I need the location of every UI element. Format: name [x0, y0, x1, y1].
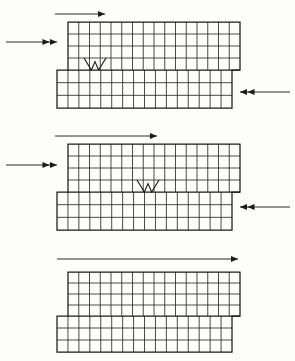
left-load-arrow-head-2: [43, 39, 50, 45]
mesh-diagram-svg: [0, 0, 295, 361]
right-reaction-arrow-head-2: [248, 204, 255, 210]
panel-2-mesh: [57, 144, 240, 230]
top-load-arrow-head-1: [98, 11, 105, 17]
right-reaction-arrow-head-1: [240, 89, 247, 95]
top-load-arrow-head-1: [231, 256, 238, 262]
panel-3-mesh: [57, 272, 240, 352]
panel-2: [6, 133, 290, 230]
left-load-arrow-head-1: [50, 162, 57, 168]
panel-2-crack-notch: [137, 180, 159, 192]
panel-1-crack-notch: [84, 58, 106, 70]
right-reaction-arrow-head-1: [240, 204, 247, 210]
top-load-arrow-head-1: [150, 133, 157, 139]
panel-1-mesh: [57, 22, 240, 108]
left-load-arrow-head-2: [43, 162, 50, 168]
panel-3: [57, 256, 240, 352]
panel-1: [6, 11, 290, 108]
left-load-arrow-head-1: [50, 39, 57, 45]
right-reaction-arrow-head-2: [248, 89, 255, 95]
diagram-canvas: [0, 0, 295, 361]
panel-3-arrows: [57, 256, 238, 262]
